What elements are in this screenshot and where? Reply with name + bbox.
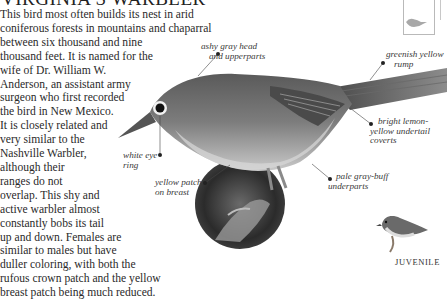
label-line: underparts — [328, 182, 388, 192]
range-map — [403, 0, 435, 35]
body-line: ranges do not — [0, 175, 250, 189]
body-line: Anderson, an assistant army — [0, 78, 250, 92]
small-bird-silhouette-icon — [404, 0, 434, 34]
body-line: up and down. Females are — [0, 231, 250, 245]
eye-ring-marker-dot — [158, 153, 162, 157]
label-eye-ring: white eye ring — [123, 151, 157, 170]
body-line: the bird in New Mexico. — [0, 105, 250, 119]
label-line: and upperparts — [201, 52, 265, 62]
juvenile-bird-illustration — [376, 216, 428, 252]
label-line: coverts — [370, 136, 430, 146]
label-line: ring — [123, 161, 157, 171]
label-breast: yellow patch on breast — [155, 178, 202, 197]
body-line: active warbler almost — [0, 203, 250, 217]
label-undertail: bright lemon- yellow undertail coverts — [376, 117, 430, 146]
juvenile-caption: JUVENILE — [395, 257, 440, 267]
body-line: overlap. This shy and — [0, 189, 250, 203]
label-line: rump — [386, 60, 444, 70]
breast-marker-dot — [203, 181, 207, 185]
body-line: wife of Dr. William W. — [0, 64, 250, 78]
body-line: surgeon who first recorded — [0, 91, 250, 105]
body-line: very similar to the — [0, 133, 250, 147]
body-line: duller coloring, with both the — [0, 258, 250, 272]
range-map-edge — [440, 0, 441, 20]
label-line: on breast — [155, 188, 202, 198]
body-line: constantly bobs its tail — [0, 217, 250, 231]
rump-marker-dot — [381, 61, 385, 65]
body-line: It is closely related and — [0, 119, 250, 133]
body-line: coniferous forests in mountains and chap… — [0, 22, 250, 36]
body-line: rufous crown patch and the yellow — [0, 272, 250, 286]
label-head: ashy gray head and upperparts — [201, 42, 265, 61]
body-line: similar to males but have — [0, 244, 250, 258]
body-line: This bird most often builds its nest in … — [0, 8, 250, 22]
label-rump: greenish yellow rump — [386, 50, 444, 69]
body-line: breast patch being much reduced. — [0, 286, 250, 300]
label-underparts: pale gray-buff underparts — [336, 172, 388, 191]
